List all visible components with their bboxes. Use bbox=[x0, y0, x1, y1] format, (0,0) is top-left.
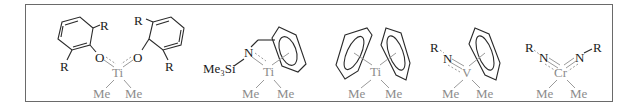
r-label: R bbox=[525, 40, 534, 55]
methyl-label: Me bbox=[536, 86, 554, 101]
arene-ring-icon bbox=[272, 27, 306, 72]
methyl-label: Me bbox=[476, 86, 494, 101]
structure-imido-arene-vanadium: R N V Me Me bbox=[430, 28, 500, 101]
metal-label: Ti bbox=[112, 65, 123, 80]
nitrogen-label: N bbox=[443, 51, 453, 66]
structure-bis-arene-titanium: Ti Me Me bbox=[336, 28, 410, 101]
methyl-label: Me bbox=[570, 86, 588, 101]
structure-bis-imido-chromium: R N N R Cr Me Me bbox=[525, 40, 602, 101]
benzene-ring-left-icon bbox=[58, 17, 93, 50]
r-label: R bbox=[165, 59, 174, 74]
oxygen-label: O bbox=[133, 50, 142, 65]
r-label: R bbox=[134, 13, 143, 28]
methyl-label: Me bbox=[93, 86, 111, 101]
methyl-label: Me bbox=[385, 86, 403, 101]
r-label: R bbox=[593, 40, 602, 55]
metal-label: Ti bbox=[263, 64, 274, 79]
methyl-label: Me bbox=[277, 86, 295, 101]
r-label: R bbox=[430, 40, 439, 55]
structures-canvas: R R O R R O Ti Me Me Me₃Si N bbox=[0, 0, 637, 111]
methyl-label: Me bbox=[442, 86, 460, 101]
oxygen-label: O bbox=[95, 50, 104, 65]
metal-label: V bbox=[462, 65, 472, 80]
nitrogen-label: N bbox=[575, 50, 585, 65]
structure-silylamido-benzyl-titanium: Me₃Si N Ti Me Me bbox=[203, 27, 306, 101]
r-label: R bbox=[100, 18, 109, 33]
methyl-label: Me bbox=[348, 86, 366, 101]
metal-label: Ti bbox=[370, 64, 381, 79]
r-label: R bbox=[60, 59, 69, 74]
structure-bis-aryloxide-titanium: R R O R R O Ti Me Me bbox=[58, 13, 184, 101]
arene-ring-right-icon bbox=[381, 28, 410, 80]
methyl-label: Me bbox=[242, 86, 260, 101]
nitrogen-label: N bbox=[539, 50, 549, 65]
metal-label: Cr bbox=[554, 65, 568, 80]
benzene-ring-right-icon bbox=[149, 17, 184, 50]
methyl-label: Me bbox=[125, 86, 143, 101]
trimethylsilyl-label: Me₃Si bbox=[203, 61, 236, 76]
